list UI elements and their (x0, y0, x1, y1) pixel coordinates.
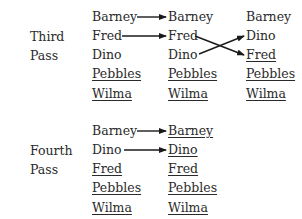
arrows-layer (0, 0, 302, 219)
arrow-icon (199, 36, 244, 54)
